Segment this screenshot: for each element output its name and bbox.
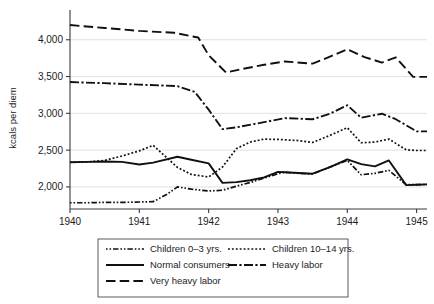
y-axis-tick-label: 2,500 <box>38 145 63 156</box>
legend-label: Children 10–14 yrs. <box>272 243 354 254</box>
legend-label: Very heavy labor <box>150 275 221 286</box>
x-axis-tick-label: 1942 <box>198 216 221 227</box>
y-axis-tick-label: 3,500 <box>38 71 63 82</box>
y-axis-tick-label: 4,000 <box>38 34 63 45</box>
x-axis-tick-label: 1945 <box>405 216 428 227</box>
y-axis-tick-label: 3,000 <box>38 108 63 119</box>
x-axis-tick-label: 1941 <box>128 216 151 227</box>
legend-label: Children 0–3 yrs. <box>150 243 222 254</box>
kcals-per-diem-line-chart: 2,0002,5003,0003,5004,000 19401941194219… <box>0 0 434 304</box>
x-axis-tick-label: 1940 <box>59 216 82 227</box>
y-axis-tick-label: 2,000 <box>38 181 63 192</box>
x-axis-tick-label: 1944 <box>336 216 359 227</box>
legend-label: Heavy labor <box>272 259 323 270</box>
chart-figure: 2,0002,5003,0003,5004,000 19401941194219… <box>0 0 434 304</box>
y-axis-title: kcals per diem <box>7 87 18 148</box>
x-axis-tick-label: 1943 <box>267 216 290 227</box>
legend-label: Normal consumers <box>150 259 230 270</box>
